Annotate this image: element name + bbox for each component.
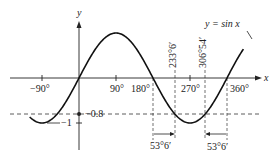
tick-label-270: 270° [181, 83, 200, 94]
function-label: y = sin x [204, 18, 240, 29]
y-label-neg0.8: −0.8 [85, 108, 103, 119]
x-axis-label: x [263, 72, 269, 83]
y-axis-arrow-icon [77, 21, 82, 28]
arrow-head-right-icon [170, 132, 175, 136]
tick-label-180: 180° [131, 83, 150, 94]
tick-label-neg90: −90° [30, 83, 50, 94]
y-point-neg0.8 [77, 112, 81, 116]
angle-diff-label-2: 53°6′ [207, 141, 228, 152]
tick-label-360: 360° [230, 83, 249, 94]
x-axis-arrow-icon [255, 76, 262, 81]
function-label-leader [247, 31, 252, 39]
arrow-head-left-icon [205, 132, 210, 136]
sine-chart: x y −90° 90° 180° 270° 360° −0.8 −1 y = … [0, 0, 272, 162]
solution-label-233: 233°6′ [167, 42, 178, 68]
angle-diff-label-1: 53°6′ [150, 140, 171, 151]
tick-label-90: 90° [110, 83, 124, 94]
solution-label-306: 306°54′ [197, 37, 208, 68]
y-axis-label: y [76, 7, 82, 18]
y-label-neg1: −1 [61, 117, 72, 128]
